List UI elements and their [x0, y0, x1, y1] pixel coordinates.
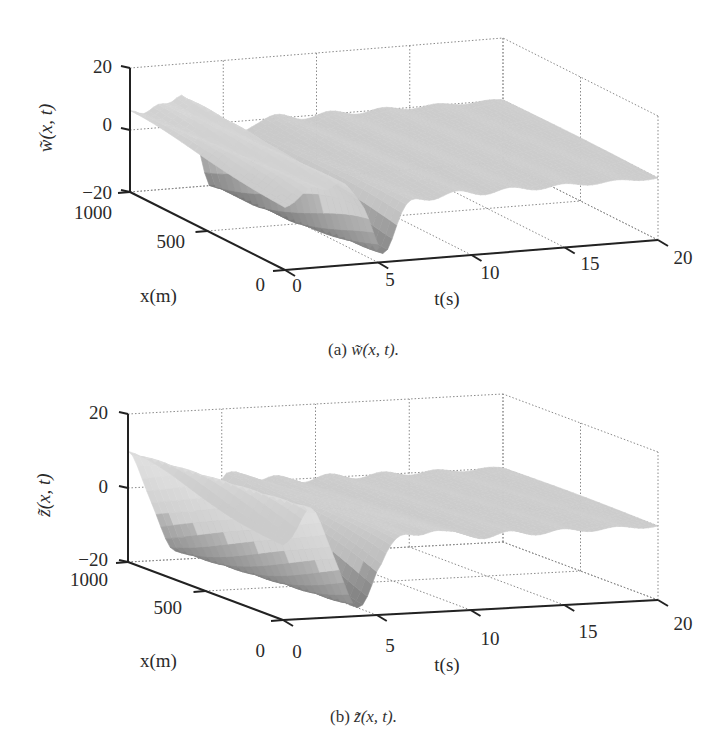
t-tick-label: 20 — [674, 613, 693, 634]
x-tick-label: 500 — [157, 231, 186, 252]
x-axis-tick — [196, 231, 208, 232]
z-tick-label: 0 — [99, 476, 109, 497]
x-tick-label: 1000 — [70, 569, 108, 590]
x-tick-label: 0 — [256, 640, 266, 661]
t-tick-label: 10 — [481, 628, 500, 649]
x-tick-label: 0 — [256, 274, 266, 295]
t-axis-tick — [378, 263, 388, 269]
caption-b: (b) z̃(x, t). — [0, 707, 727, 727]
surface — [130, 95, 658, 253]
caption-a-func: w̃(x, t). — [351, 340, 399, 359]
z-tick-label: 20 — [89, 402, 108, 423]
surface — [128, 451, 658, 607]
t-tick-label: 0 — [292, 275, 302, 296]
caption-a-prefix: (a) — [328, 340, 347, 359]
z-tick-label: −20 — [78, 549, 108, 570]
surface-plot-w: 20 0 −20 1000 500 0 x(m) 0 5 10 15 20 t(… — [0, 0, 727, 330]
t-tick-label: 0 — [292, 641, 302, 662]
surface-plot-z: 20 0 −20 1000 500 0 x(m) 0 5 10 15 20 t(… — [0, 360, 727, 700]
x-axis-tick — [194, 591, 206, 592]
x-axis-tick — [271, 620, 283, 621]
t-tick-label: 5 — [385, 269, 395, 290]
t-axis-tick — [564, 605, 574, 611]
t-axis-tick — [565, 248, 575, 254]
z-axis-tick — [119, 412, 128, 414]
x-axis-tick — [118, 192, 130, 193]
t-tick-label: 10 — [481, 262, 500, 283]
t-axis-tick — [472, 255, 482, 261]
x-axis-label: x(m) — [140, 285, 177, 307]
caption-b-prefix: (b) — [330, 707, 350, 726]
t-tick-label: 15 — [581, 253, 600, 274]
caption-b-func: z̃(x, t). — [354, 707, 397, 726]
t-tick-label: 15 — [579, 621, 598, 642]
z-axis-label: w̃(x, t) — [35, 104, 57, 153]
t-axis-tick — [658, 240, 668, 246]
z-axis-tick — [119, 486, 128, 488]
z-axis-tick — [121, 66, 130, 68]
grid-line — [409, 547, 564, 605]
x-axis-tick — [116, 562, 128, 563]
t-axis-label: t(s) — [434, 288, 459, 310]
z-axis-tick — [121, 128, 130, 130]
t-axis-tick — [658, 600, 668, 606]
caption-a: (a) w̃(x, t). — [0, 340, 727, 360]
t-axis-tick — [471, 610, 481, 616]
z-axis-label: z̃(x, t) — [33, 473, 55, 517]
t-axis-label: t(s) — [434, 654, 459, 676]
x-axis-tick — [273, 270, 285, 271]
z-tick-label: 20 — [93, 56, 112, 77]
z-tick-label: −20 — [82, 182, 112, 203]
z-tick-label: 0 — [103, 114, 113, 135]
t-axis-tick — [377, 615, 387, 621]
x-tick-label: 1000 — [74, 202, 112, 223]
t-tick-label: 20 — [674, 247, 693, 268]
x-tick-label: 500 — [154, 597, 183, 618]
t-tick-label: 5 — [385, 635, 395, 656]
t-axis-tick — [283, 620, 293, 626]
x-axis-label: x(m) — [140, 650, 177, 672]
